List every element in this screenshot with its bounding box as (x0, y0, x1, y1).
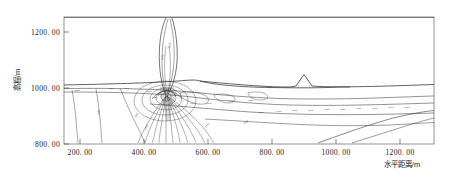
x-tick-label: 200. 00 (68, 148, 93, 157)
contour-plot-svg: 1040 1040 1050 1050 1060 1060 1070 1070 … (0, 0, 450, 174)
contour-label: 1050 (276, 110, 282, 113)
x-tick-label: 400. 00 (132, 148, 157, 157)
contour-label: 1070 (308, 109, 314, 112)
x-tick-label: 600. 00 (196, 148, 221, 157)
contour-label: 1040 (108, 87, 114, 90)
plot-frame (64, 17, 434, 144)
contour-label: 1050 (124, 87, 130, 90)
contour-label: 1070 (228, 99, 234, 102)
contour-label: 1080 (324, 108, 330, 111)
y-tick-label: 1200. 00 (31, 28, 60, 37)
contour-label: 1080 (248, 99, 254, 102)
contour-label: 1040 (74, 89, 80, 92)
contour-label: 1070 (206, 102, 212, 105)
y-tick-label: 800. 00 (35, 140, 60, 149)
contour-label: 1060 (372, 107, 378, 110)
plot-area-border (64, 17, 434, 144)
contour-figure: 1040 1040 1050 1050 1060 1060 1070 1070 … (0, 0, 450, 174)
contour-label: 1050 (356, 107, 362, 110)
x-tick-labels: 200. 00 400. 00 600. 00 800. 00 1000. 00… (68, 148, 415, 157)
contour-label: 1040 (258, 111, 264, 114)
contour-label: 1080 (404, 106, 410, 109)
y-tick-labels: 1200. 00 1000. 00 800. 00 (31, 28, 60, 149)
x-tick-label: 800. 00 (260, 148, 285, 157)
contour-label: 1060 (292, 109, 298, 112)
contour-label: 1070 (388, 106, 394, 109)
y-tick-label: 1000. 00 (31, 84, 60, 93)
contour-label: 1050 (146, 90, 152, 93)
x-axis-title: 水平距离/m (384, 159, 420, 169)
contour-label: 1060 (190, 102, 196, 105)
x-tick-label: 1000. 00 (322, 148, 351, 157)
contour-label: 1060 (152, 96, 158, 99)
x-tick-label: 1200. 00 (386, 148, 415, 157)
contour-label: 1040 (340, 108, 346, 111)
y-axis-title: 高程/m (12, 69, 22, 91)
